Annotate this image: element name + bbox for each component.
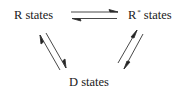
arrow-r-to-rstar-icon [71, 10, 118, 13]
arrow-d-to-rstar-icon [118, 30, 137, 63]
arrow-rstar-to-d-icon [124, 34, 143, 69]
equilibrium-arrows [0, 0, 196, 94]
arrow-rstar-to-r-icon [72, 19, 117, 22]
state-diagram: R states R*states D states [0, 0, 196, 94]
